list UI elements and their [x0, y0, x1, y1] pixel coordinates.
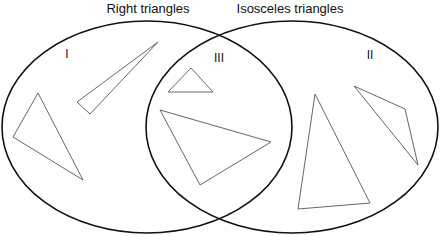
set-title-isosceles-triangles: Isosceles triangles — [237, 1, 344, 16]
region-label-II: II — [367, 48, 374, 62]
triangle-region-I-thin — [77, 42, 158, 114]
region-label-III: III — [214, 51, 224, 65]
ellipse-right-triangles — [2, 21, 292, 233]
triangle-region-II-obtuse — [354, 86, 418, 165]
set-title-right-triangles: Right triangles — [106, 1, 190, 16]
triangle-region-II-tall — [298, 94, 370, 209]
triangle-region-I-left — [13, 93, 83, 180]
triangle-region-III-small — [168, 68, 213, 92]
region-label-I: I — [65, 47, 68, 61]
venn-diagram: Right triangles Isosceles triangles I II… — [0, 0, 440, 236]
triangle-region-III-large — [160, 110, 271, 185]
